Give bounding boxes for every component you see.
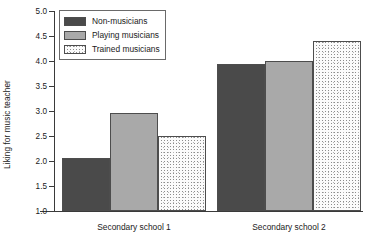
y-axis-title: Liking for music teacher [0, 0, 14, 249]
y-tick-label: 4.5 [25, 32, 47, 41]
legend-item-label: Trained musicians [92, 44, 160, 54]
legend-swatch-icon [64, 17, 86, 26]
legend-item: Trained musicians [64, 42, 160, 56]
y-tick-label: 1.0 [25, 207, 47, 216]
bar-chart: Liking for music teacher 1.01.52.02.53.0… [0, 0, 379, 249]
bar [158, 136, 206, 212]
legend-item: Playing musicians [64, 28, 160, 42]
bar [62, 158, 110, 212]
chart-legend: Non-musiciansPlaying musiciansTrained mu… [59, 10, 166, 60]
y-tick-label: 3.5 [25, 82, 47, 91]
x-axis-category-label: Secondary school 1 [74, 222, 194, 232]
legend-item-label: Playing musicians [92, 30, 159, 40]
bar [313, 41, 361, 211]
y-tick-label: 2.0 [25, 157, 47, 166]
y-tick-label: 4.0 [25, 57, 47, 66]
y-tick-label: 5.0 [25, 7, 47, 16]
legend-item: Non-musicians [64, 14, 160, 28]
y-tick-mark [49, 211, 55, 212]
bar [110, 113, 158, 211]
x-axis-category-label: Secondary school 2 [229, 222, 349, 232]
legend-swatch-icon [64, 31, 86, 40]
legend-item-label: Non-musicians [92, 16, 147, 26]
bar [217, 64, 265, 212]
bar [265, 61, 313, 212]
y-tick-label: 3.0 [25, 107, 47, 116]
legend-swatch-icon [64, 45, 86, 54]
x-axis-line [40, 211, 363, 212]
y-tick-label: 2.5 [25, 132, 47, 141]
y-tick-label: 1.5 [25, 182, 47, 191]
